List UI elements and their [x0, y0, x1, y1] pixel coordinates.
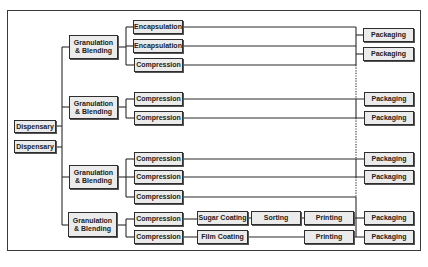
node-comp5: Compression: [134, 170, 183, 184]
node-sugar: Sugar Coating: [197, 211, 248, 225]
node-gran2: Granulation & Blending: [69, 96, 118, 119]
node-comp4: Compression: [134, 152, 183, 166]
node-comp8: Compression: [134, 230, 183, 244]
node-disp1: Dispensary: [14, 120, 56, 133]
node-sort: Sorting: [251, 211, 301, 225]
node-comp3: Compression: [134, 111, 183, 125]
node-pack2: Packaging: [363, 47, 414, 61]
node-comp1: Compression: [134, 58, 183, 72]
node-enc2: Encapsulation: [133, 39, 183, 53]
node-disp2: Dispensary: [14, 140, 56, 153]
node-pack6: Packaging: [364, 170, 414, 184]
node-gran1: Granulation & Blending: [69, 35, 118, 59]
node-comp7: Compression: [134, 212, 183, 226]
node-comp6: Compression: [134, 190, 183, 204]
node-pack5: Packaging: [364, 152, 414, 166]
node-pack4: Packaging: [364, 111, 414, 125]
node-enc1: Encapsulation: [133, 20, 183, 34]
node-gran4: Granulation & Blending: [68, 212, 117, 237]
node-gran3: Granulation & Blending: [69, 165, 118, 189]
node-pack8: Packaging: [364, 230, 414, 244]
node-pack1: Packaging: [363, 28, 414, 42]
node-comp2: Compression: [134, 92, 183, 106]
node-print1: Printing: [304, 211, 354, 225]
node-pack3: Packaging: [364, 92, 414, 106]
node-print2: Printing: [304, 230, 354, 244]
node-pack7: Packaging: [364, 211, 414, 225]
node-film: Film Coating: [197, 230, 248, 244]
process-flow-diagram: DispensaryDispensaryGranulation & Blendi…: [0, 0, 428, 267]
